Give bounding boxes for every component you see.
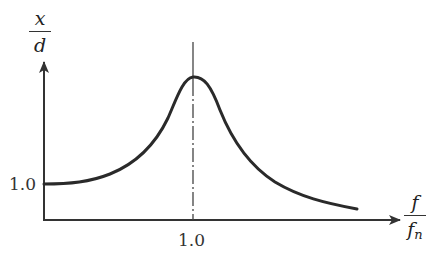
y-axis-label-denominator: d — [34, 36, 46, 55]
x-tick-label: 1.0 — [178, 232, 205, 249]
chart-canvas — [0, 0, 430, 257]
y-tick-label: 1.0 — [9, 176, 36, 193]
response-curve — [44, 77, 357, 209]
y-axis-label-numerator: x — [35, 9, 46, 28]
x-axis-label-den-subscript: n — [414, 227, 422, 242]
x-axis-label-numerator: f — [411, 193, 418, 212]
x-axis-label-denominator: fn — [407, 220, 422, 241]
fraction-bar — [29, 31, 51, 32]
fraction-bar — [404, 215, 426, 216]
x-axis-label: f fn — [404, 193, 426, 241]
y-axis-label: x d — [29, 9, 51, 55]
